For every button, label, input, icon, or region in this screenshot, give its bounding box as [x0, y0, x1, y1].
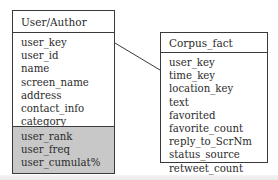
user-author-to-corpus-fact-line [115, 43, 160, 70]
attribute-status-source: status_source [169, 148, 267, 161]
attribute-user-rank: user_rank [21, 130, 114, 143]
attribute-user-key: user_key [21, 36, 114, 49]
attribute-list: user_key user_id name screen_name addres… [13, 33, 114, 131]
derived-attribute-section: user_rank user_freq user_cumulat% [13, 126, 114, 173]
entity-user-author: User/Author user_key user_id name screen… [12, 10, 115, 174]
attribute-user-id: user_id [21, 49, 114, 62]
attribute-list: user_key time_key location_key text favo… [161, 53, 267, 178]
entity-title: User/Author [13, 11, 114, 33]
attribute-location-key: location_key [169, 82, 267, 95]
attribute-user-cumulat: user_cumulat% [21, 156, 114, 169]
attribute-favorite-count: favorite_count [169, 122, 267, 135]
attribute-time-key: time_key [169, 69, 267, 82]
attribute-text: text [169, 96, 267, 109]
attribute-name: name [21, 62, 114, 75]
attribute-address: address [21, 89, 114, 102]
attribute-user-freq: user_freq [21, 143, 114, 156]
attribute-favorited: favorited [169, 109, 267, 122]
entity-title: Corpus_fact [161, 33, 267, 53]
attribute-screen-name: screen_name [21, 76, 114, 89]
attribute-reply-to-scrnm: reply_to_ScrNm [169, 135, 267, 148]
attribute-user-key: user_key [169, 56, 267, 69]
entity-corpus-fact: Corpus_fact user_key time_key location_k… [160, 32, 268, 163]
attribute-contact-info: contact_info [21, 102, 114, 115]
attribute-retweet-count: retweet_count [169, 162, 267, 175]
bottom-edge-strip [0, 175, 278, 180]
